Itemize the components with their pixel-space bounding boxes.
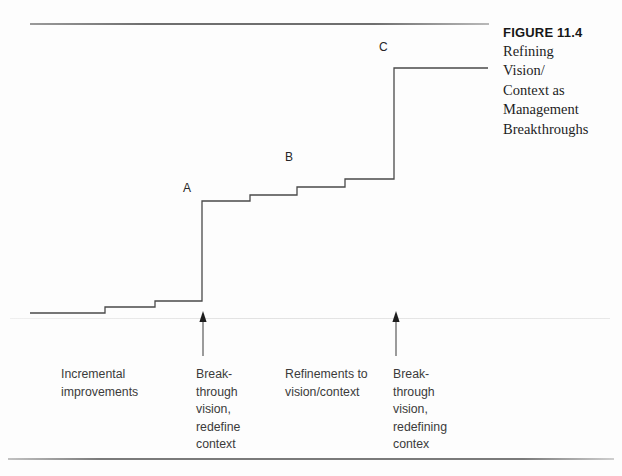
annotation-breakthrough-redefine-context: Break-throughvision,redefinecontext [196, 366, 240, 454]
annotation-line: improvements [61, 384, 138, 402]
breakthrough-arrows [199, 311, 399, 356]
annotation-line: context [196, 436, 240, 454]
figure-caption-line: Management [503, 100, 619, 119]
figure-caption-line: Refining [503, 42, 619, 61]
annotation-line: redefine [196, 419, 240, 437]
annotation-incremental-improvements: Incrementalimprovements [61, 366, 138, 401]
annotation-line: Break- [196, 366, 240, 384]
annotation-line: contex [393, 436, 447, 454]
annotation-line: redefining [393, 419, 447, 437]
figure-caption-line: Context as [503, 81, 619, 100]
annotation-line: through [393, 384, 447, 402]
figure-page: A B C Incrementalimprovements Break-thro… [0, 0, 622, 476]
annotation-line: Incremental [61, 366, 138, 384]
figure-caption-body: RefiningVision/Context asManagementBreak… [503, 42, 619, 139]
staircase-line [30, 68, 488, 313]
arrow-head [392, 311, 399, 322]
annotation-line: Break- [393, 366, 447, 384]
annotation-refinements-to-vision-context: Refinements tovision/context [285, 366, 368, 401]
annotation-line: through [196, 384, 240, 402]
annotation-line: vision, [196, 401, 240, 419]
annotation-breakthrough-redefining-context: Break-throughvision,redefiningcontex [393, 366, 447, 454]
annotation-line: vision/context [285, 384, 368, 402]
step-label-b: B [285, 150, 293, 164]
annotation-line: Refinements to [285, 366, 368, 384]
step-label-a: A [183, 181, 191, 195]
figure-caption-title: FIGURE 11.4 [503, 24, 619, 41]
arrow-head [199, 311, 206, 322]
figure-caption-line: Breakthroughs [503, 120, 619, 139]
figure-caption-line: Vision/ [503, 61, 619, 80]
annotation-line: vision, [393, 401, 447, 419]
step-label-c: C [379, 40, 388, 54]
figure-caption: FIGURE 11.4 RefiningVision/Context asMan… [503, 24, 619, 139]
